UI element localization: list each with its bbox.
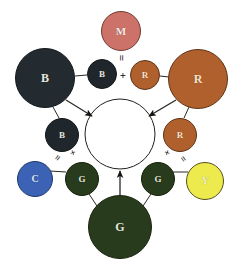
node-label-r-large: R (194, 73, 203, 85)
node-y-yellow: Y (186, 162, 224, 200)
node-label-m-magenta: M (116, 26, 126, 37)
operator-equals-top: = (116, 55, 127, 61)
node-label-b-large: B (41, 72, 49, 84)
node-b-large: B (15, 48, 75, 108)
node-g-large: G (88, 195, 152, 259)
node-label-r-small-right: R (177, 131, 184, 140)
link-b-large-to-b-small-top (75, 75, 87, 76)
node-label-g-small-left: G (78, 175, 85, 184)
node-label-g-large: G (115, 221, 124, 233)
node-g-small-right: G (141, 162, 175, 196)
node-label-c-cyan: C (31, 174, 38, 184)
arrow-r-large-to-center (149, 100, 176, 116)
white-result-circle (85, 99, 155, 169)
node-label-y-yellow: Y (201, 176, 208, 186)
arrow-b-large-to-center (66, 100, 92, 116)
link-b-large-to-b-small-left (53, 107, 59, 118)
node-r-large: R (168, 49, 228, 109)
node-label-g-small-right: G (154, 175, 161, 184)
node-label-b-small-top: B (99, 70, 105, 79)
node-m-magenta: M (101, 11, 141, 51)
node-b-small-top: B (87, 59, 117, 89)
link-c-to-g-small-left (50, 171, 66, 172)
node-g-small-left: G (65, 162, 99, 196)
node-r-small-top: R (130, 60, 160, 90)
colour-mixing-diagram: MBBRRBRCGGYG =+=++= (0, 0, 241, 264)
node-label-b-small-left: B (59, 131, 65, 140)
operator-plus-top: + (120, 70, 126, 81)
link-r-large-to-r-small-right (184, 107, 189, 118)
node-c-cyan: C (17, 161, 53, 197)
node-label-r-small-top: R (142, 71, 149, 80)
link-g-large-to-g-small-right (143, 194, 151, 206)
